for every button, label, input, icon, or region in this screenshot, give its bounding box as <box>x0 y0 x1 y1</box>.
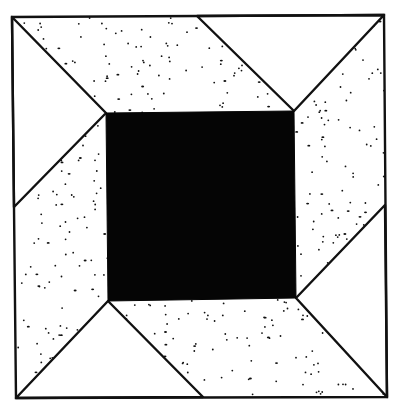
quilt-block-diagram <box>0 0 398 415</box>
center-black-square <box>106 111 296 301</box>
